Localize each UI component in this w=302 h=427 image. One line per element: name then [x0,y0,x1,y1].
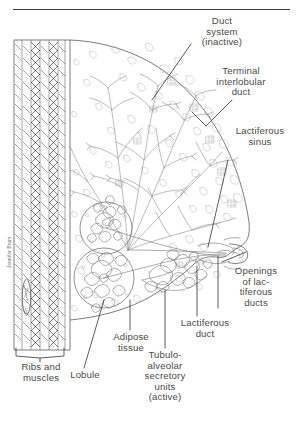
label-lactiferous-duct: Lactiferous duct [172,318,238,339]
mammary-gland-figure: Duct system (inactive) Terminal interlob… [0,0,302,427]
label-terminal-interlobular-duct: Terminal interlobular duct [198,66,284,98]
chest-wall-band [14,40,70,350]
label-adipose-tissue: Adipose tissue [104,332,158,353]
artist-signature: Jennifer Brum [7,237,12,268]
label-ribs-and-muscles: Ribs and muscles [10,362,72,383]
label-lactiferous-sinus: Lactiferous sinus [222,126,298,147]
label-duct-system: Duct system (inactive) [186,16,258,48]
label-tubuloalveolar-units: Tubulo- alveolar secretory units (active… [134,350,196,403]
label-openings-lactiferous-ducts: Openings of lac- tiferous ducts [224,266,288,308]
lobule-group [74,196,134,313]
